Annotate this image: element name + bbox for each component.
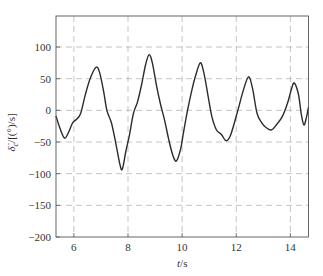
y-tick-label: 100 xyxy=(35,41,52,53)
y-axis-label-unit: /[(°)/s] xyxy=(5,113,18,142)
y-tick-label: −100 xyxy=(28,168,51,180)
x-tick-label: 6 xyxy=(71,241,77,253)
y-tick-label: −150 xyxy=(28,199,51,211)
x-axis-label-unit: /s xyxy=(180,257,187,269)
y-tick-labels: −200−150−100−50050100 xyxy=(28,41,51,243)
y-tick-label: −200 xyxy=(28,231,51,243)
x-tick-label: 8 xyxy=(125,241,131,253)
y-axis-label: δ̇c/[(°)/s] xyxy=(5,113,20,151)
x-tick-label: 12 xyxy=(231,241,242,253)
x-tick-label: 10 xyxy=(177,241,189,253)
x-axis-label: t/s xyxy=(177,257,187,269)
y-tick-label: 50 xyxy=(40,73,52,85)
y-tick-label: 0 xyxy=(46,104,52,116)
x-tick-label: 14 xyxy=(285,241,297,253)
grid xyxy=(56,16,309,237)
line-chart: 68101214 −200−150−100−50050100 t/s δ̇c/[… xyxy=(0,0,323,276)
y-tick-label: −50 xyxy=(34,136,52,148)
x-tick-labels: 68101214 xyxy=(71,241,296,253)
